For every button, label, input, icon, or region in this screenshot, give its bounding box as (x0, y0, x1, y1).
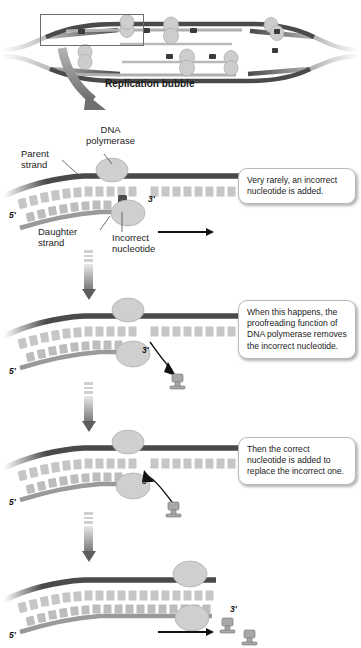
panel-4-three-prime: 3' (230, 604, 237, 614)
incoming-nucleotide-panel-3 (166, 502, 181, 517)
callout-3: Then the correct nucleotide is added to … (238, 437, 356, 485)
callout-1: Very rarely, an incorrect nucleotide is … (238, 168, 356, 204)
transition-dashes-3 (84, 512, 93, 526)
panel-2-three-prime: 3' (142, 345, 149, 355)
panel-2-strand (0, 300, 240, 410)
ejected-nucleotide-panel-2 (170, 374, 185, 389)
transition-arrow-1 (81, 264, 96, 290)
figure-canvas: Replication bubble DNA polymerase Parent… (0, 0, 361, 648)
panel-4-strand (0, 562, 300, 648)
free-nucleotide-1 (220, 618, 235, 633)
zoom-region-box (40, 14, 144, 46)
panel-3-five-prime: 5' (9, 497, 16, 507)
panel-1-strand (0, 150, 240, 265)
panel-2-five-prime: 5' (9, 366, 16, 376)
panel-1-direction-arrow (158, 228, 214, 236)
panel-4-five-prime: 5' (9, 630, 16, 640)
callout-1-text: Very rarely, an incorrect nucleotide is … (247, 175, 337, 196)
transition-dashes-2 (84, 382, 93, 396)
callout-3-text: Then the correct nucleotide is added to … (247, 444, 344, 476)
callout-2-text: When this happens, the proofreading func… (247, 307, 347, 351)
transition-arrow-3 (81, 526, 96, 552)
dna-polymerase-label: DNA polymerase (86, 124, 135, 146)
callout-2: When this happens, the proofreading func… (238, 300, 356, 359)
panel-1-five-prime: 5' (9, 210, 16, 220)
panel-1-three-prime: 3' (148, 194, 155, 204)
free-nucleotide-2 (242, 630, 257, 645)
panel-3-three-prime: 3' (142, 476, 149, 486)
transition-arrow-2 (81, 396, 96, 422)
transition-dashes-1 (84, 250, 93, 264)
panel-3-strand (0, 432, 240, 542)
replication-bubble-label: Replication bubble (105, 78, 194, 89)
panel-4-direction-arrow (158, 628, 214, 636)
